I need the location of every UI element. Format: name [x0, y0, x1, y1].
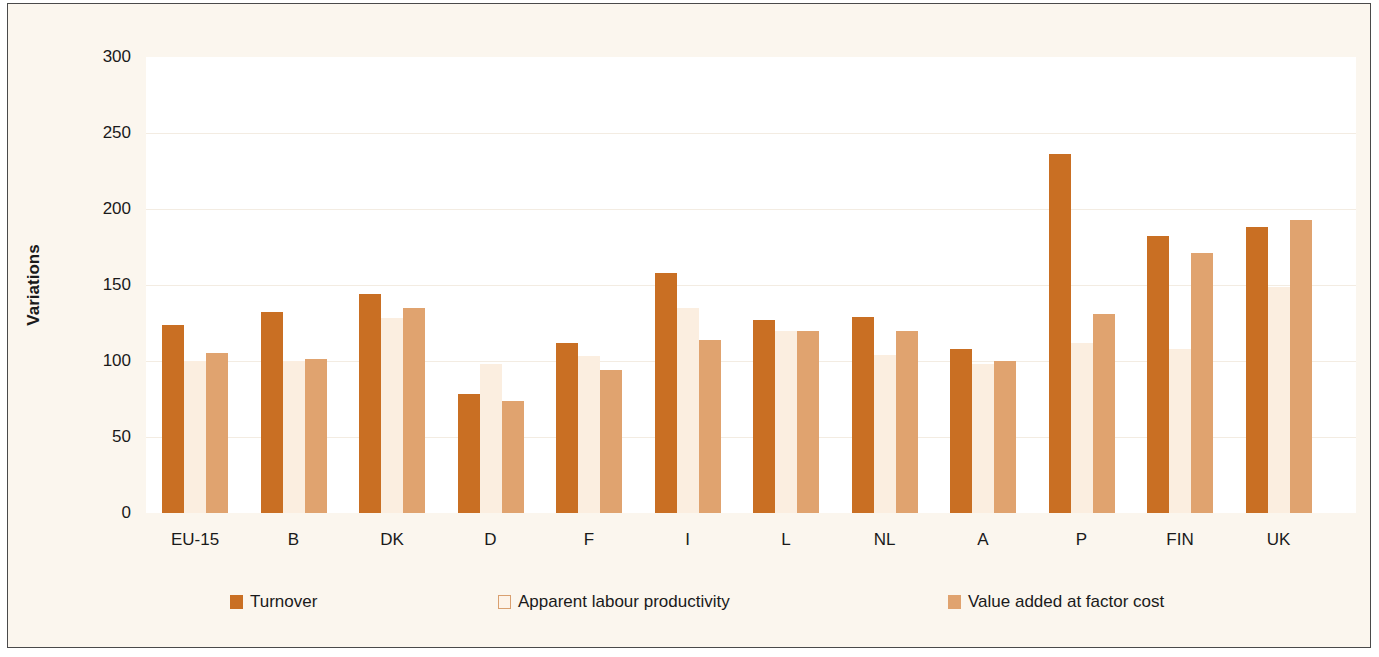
x-tick-label: FIN: [1166, 530, 1193, 550]
bar-a-turnover: [950, 349, 972, 513]
bar-l-value-added-at-factor-cost: [797, 331, 819, 513]
x-tick-label: DK: [380, 530, 404, 550]
bar-d-apparent-labour-productivity: [480, 364, 502, 513]
bar-eu-15-value-added-at-factor-cost: [206, 353, 228, 513]
legend-label: Apparent labour productivity: [518, 592, 730, 612]
y-tick-label: 100: [71, 351, 131, 371]
x-tick-label: D: [484, 530, 496, 550]
bar-f-turnover: [556, 343, 578, 513]
bar-nl-turnover: [852, 317, 874, 513]
x-tick-label: UK: [1267, 530, 1291, 550]
gridline: [146, 133, 1356, 134]
legend-label: Turnover: [250, 592, 317, 612]
legend-item-apparent-labour-productivity: Apparent labour productivity: [498, 592, 730, 612]
bar-fin-apparent-labour-productivity: [1169, 349, 1191, 513]
legend-swatch-apparent-labour-productivity: [498, 595, 511, 609]
bar-f-apparent-labour-productivity: [578, 356, 600, 513]
bar-fin-value-added-at-factor-cost: [1191, 253, 1213, 513]
x-tick-label: F: [584, 530, 594, 550]
gridline: [146, 285, 1356, 286]
bar-dk-value-added-at-factor-cost: [403, 308, 425, 513]
bar-b-turnover: [261, 312, 283, 513]
bar-b-apparent-labour-productivity: [283, 361, 305, 513]
bar-l-apparent-labour-productivity: [775, 331, 797, 513]
gridline: [146, 209, 1356, 210]
bar-a-apparent-labour-productivity: [972, 364, 994, 513]
bar-i-turnover: [655, 273, 677, 513]
bar-uk-turnover: [1246, 227, 1268, 513]
y-tick-label: 250: [71, 123, 131, 143]
legend-swatch-turnover: [230, 595, 243, 609]
bar-a-value-added-at-factor-cost: [994, 361, 1016, 513]
bar-uk-apparent-labour-productivity: [1268, 287, 1290, 513]
bar-l-turnover: [753, 320, 775, 513]
x-tick-label: A: [977, 530, 988, 550]
legend-item-turnover: Turnover: [230, 592, 317, 612]
bar-f-value-added-at-factor-cost: [600, 370, 622, 513]
y-tick-label: 300: [71, 47, 131, 67]
x-tick-label: P: [1076, 530, 1087, 550]
bar-dk-turnover: [359, 294, 381, 513]
bar-p-turnover: [1049, 154, 1071, 513]
y-tick-label: 200: [71, 199, 131, 219]
x-tick-label: L: [781, 530, 790, 550]
bar-uk-value-added-at-factor-cost: [1290, 220, 1312, 513]
y-tick-label: 50: [71, 427, 131, 447]
bar-eu-15-apparent-labour-productivity: [184, 361, 206, 513]
legend-label: Value added at factor cost: [968, 592, 1164, 612]
y-axis-label: Variations: [24, 244, 44, 325]
bar-p-value-added-at-factor-cost: [1093, 314, 1115, 513]
bar-p-apparent-labour-productivity: [1071, 343, 1093, 513]
y-tick-label: 150: [71, 275, 131, 295]
bar-i-value-added-at-factor-cost: [699, 340, 721, 513]
bar-nl-value-added-at-factor-cost: [896, 331, 918, 513]
bar-dk-apparent-labour-productivity: [381, 318, 403, 513]
plot-area: [146, 57, 1356, 513]
y-tick-label: 0: [71, 503, 131, 523]
legend-swatch-value-added: [948, 595, 961, 609]
bar-nl-apparent-labour-productivity: [874, 355, 896, 513]
x-tick-label: EU-15: [171, 530, 219, 550]
bar-i-apparent-labour-productivity: [677, 308, 699, 513]
bar-fin-turnover: [1147, 236, 1169, 513]
bar-eu-15-turnover: [162, 325, 184, 513]
bar-b-value-added-at-factor-cost: [305, 359, 327, 513]
bar-d-value-added-at-factor-cost: [502, 401, 524, 513]
bar-d-turnover: [458, 394, 480, 513]
x-tick-label: I: [685, 530, 690, 550]
x-tick-label: B: [288, 530, 299, 550]
legend-item-value-added: Value added at factor cost: [948, 592, 1164, 612]
x-tick-label: NL: [874, 530, 896, 550]
